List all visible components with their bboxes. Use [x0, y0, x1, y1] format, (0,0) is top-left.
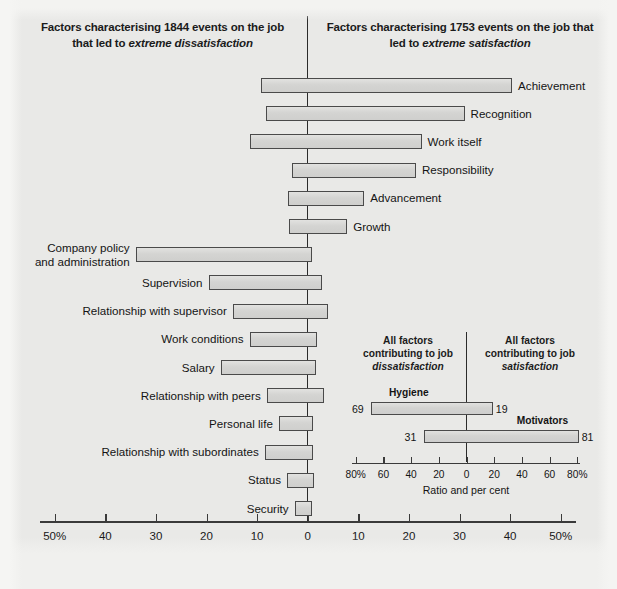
bar-label-relationship-with-subordinates: Relationship with subordinates [101, 445, 258, 459]
x-tick-label-9: 40 [490, 530, 530, 542]
bar-label-supervision: Supervision [142, 276, 203, 290]
inset-bar-name-hygiene: Hygiene [389, 387, 429, 398]
x-tick-0 [55, 514, 56, 522]
inset-left-heading-plain: All factors contributing to job [363, 335, 453, 359]
inset-x-tick-8 [577, 457, 578, 464]
x-tick-6 [358, 514, 359, 522]
inset-right-heading: All factors contributing to job satisfac… [474, 334, 586, 373]
inset-bar-motivators [424, 430, 579, 443]
bar-achievement [261, 78, 513, 93]
bar-advancement [288, 191, 365, 206]
bar-label-advancement: Advancement [370, 191, 441, 205]
bar-label-work-itself: Work itself [428, 135, 482, 149]
bar-salary [221, 360, 316, 375]
inset-x-tick-3 [439, 457, 440, 464]
bar-recognition [266, 106, 465, 121]
bar-security [295, 501, 312, 516]
bar-label-salary: Salary [182, 361, 215, 375]
bar-label-responsibility: Responsibility [422, 163, 494, 177]
x-tick-2 [156, 514, 157, 522]
inset-right-value-motivators: 81 [582, 431, 594, 443]
left-heading-italic: extreme dissatisfaction [128, 37, 252, 49]
x-tick-label-8: 30 [440, 530, 480, 542]
x-tick-label-0: 50% [35, 530, 75, 542]
bar-supervision [209, 275, 322, 290]
herzberg-two-factor-chart: Factors characterising 1844 events on th… [0, 0, 617, 589]
inset-right-heading-italic: satisfaction [502, 361, 559, 372]
bar-work-conditions [250, 332, 317, 347]
bar-label-growth: Growth [353, 220, 390, 234]
x-tick-label-6: 10 [338, 530, 378, 542]
inset-x-tick-0 [356, 457, 357, 464]
bar-growth [289, 219, 348, 234]
bar-label-work-conditions: Work conditions [161, 332, 243, 346]
x-tick-label-1: 40 [85, 530, 125, 542]
bar-label-security: Security [247, 502, 289, 516]
bar-label-achievement: Achievement [518, 79, 585, 93]
x-tick-10 [561, 514, 562, 522]
right-column-heading: Factors characterising 1753 events on th… [320, 19, 600, 51]
bar-relationship-with-subordinates [265, 445, 313, 460]
x-tick-7 [409, 514, 410, 522]
inset-bar-hygiene [371, 402, 493, 415]
x-tick-label-5: 0 [288, 530, 328, 542]
x-tick-label-3: 20 [187, 530, 227, 542]
bar-label-line-0: Company policy [0, 241, 130, 255]
bar-label-line-1: and administration [0, 255, 130, 269]
inset-bar-name-motivators: Motivators [517, 415, 569, 426]
inset-left-value-motivators: 31 [405, 431, 417, 443]
x-tick-9 [510, 514, 511, 522]
inset-x-tick-4 [467, 457, 468, 464]
left-column-heading: Factors characterising 1844 events on th… [30, 19, 295, 51]
x-tick-label-7: 20 [389, 530, 429, 542]
bar-company-policy-and-administration [136, 247, 313, 262]
x-tick-8 [460, 514, 461, 522]
bar-personal-life [279, 416, 313, 431]
bar-label-company-policy-and-administration: Company policyand administration [0, 241, 130, 269]
inset-left-heading-italic: dissatisfaction [372, 361, 443, 372]
bar-work-itself [250, 134, 422, 149]
x-tick-label-2: 30 [136, 530, 176, 542]
inset-right-heading-plain: All factors contributing to job [485, 335, 575, 359]
bar-relationship-with-peers [267, 388, 324, 403]
inset-left-value-hygiene: 69 [352, 403, 364, 415]
inset-right-value-hygiene: 19 [496, 403, 508, 415]
inset-x-tick-2 [411, 457, 412, 464]
bar-label-recognition: Recognition [471, 107, 532, 121]
inset-x-tick-6 [522, 457, 523, 464]
inset-ratio-chart: All factors contributing to job dissatis… [352, 330, 592, 495]
bar-relationship-with-supervisor [233, 304, 328, 319]
right-heading-italic: extreme satisfaction [422, 37, 530, 49]
chart-plot-area: Factors characterising 1844 events on th… [0, 0, 617, 589]
bar-label-relationship-with-peers: Relationship with peers [141, 389, 261, 403]
inset-x-tick-5 [494, 457, 495, 464]
bar-label-status: Status [248, 473, 281, 487]
bar-label-relationship-with-supervisor: Relationship with supervisor [82, 304, 226, 318]
inset-x-tick-label-8: 80% [560, 469, 594, 480]
x-tick-3 [207, 514, 208, 522]
inset-left-heading: All factors contributing to job dissatis… [354, 334, 462, 373]
x-axis-caption: Percentage frequency [0, 552, 617, 564]
bar-label-personal-life: Personal life [209, 417, 273, 431]
x-tick-label-10: 50% [541, 530, 581, 542]
bar-status [287, 473, 314, 488]
x-tick-1 [105, 514, 106, 522]
bar-responsibility [292, 163, 417, 178]
x-tick-label-4: 10 [237, 530, 277, 542]
inset-x-tick-7 [550, 457, 551, 464]
inset-x-tick-1 [383, 457, 384, 464]
inset-x-axis-caption: Ratio and per cent [352, 484, 580, 496]
